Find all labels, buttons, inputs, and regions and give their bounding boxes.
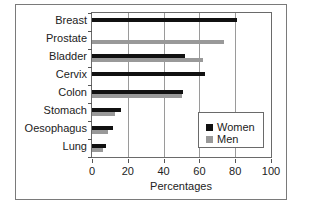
- x-tick-label: 80: [229, 165, 241, 177]
- y-tick: [88, 67, 92, 68]
- y-tick: [88, 13, 92, 14]
- category-label: Cervix: [56, 68, 87, 80]
- x-tick: [92, 159, 93, 163]
- category-label: Bladder: [49, 50, 87, 62]
- x-tick-label: 0: [89, 165, 95, 177]
- category-label: Colon: [58, 86, 87, 98]
- y-tick: [88, 49, 92, 50]
- bar-men-prostate: [92, 40, 224, 44]
- y-tick: [88, 31, 92, 32]
- category-label: Lung: [63, 140, 87, 152]
- bar-women-breast: [92, 18, 237, 22]
- category-label: Prostate: [46, 32, 87, 44]
- bar-men-bladder: [92, 58, 203, 62]
- legend-swatch-men: [206, 136, 213, 143]
- category-label: Stomach: [44, 104, 87, 116]
- x-tick-label: 40: [157, 165, 169, 177]
- x-tick: [235, 159, 236, 163]
- legend: Women Men: [198, 112, 264, 148]
- x-tick-label: 20: [122, 165, 134, 177]
- x-axis-title: Percentages: [150, 180, 212, 192]
- legend-item-women: Women: [206, 121, 255, 133]
- legend-swatch-women: [206, 124, 213, 131]
- y-tick: [88, 85, 92, 86]
- y-tick: [88, 139, 92, 140]
- y-tick: [88, 103, 92, 104]
- bar-men-stomach: [92, 112, 115, 116]
- bar-men-colon: [92, 94, 182, 98]
- legend-label-women: Women: [217, 121, 255, 133]
- legend-label-men: Men: [217, 133, 238, 145]
- x-tick-label: 100: [262, 165, 280, 177]
- category-label: Oesophagus: [25, 122, 87, 134]
- gridline: [164, 13, 165, 157]
- legend-item-men: Men: [206, 133, 238, 145]
- x-tick: [164, 159, 165, 163]
- x-tick-label: 60: [193, 165, 205, 177]
- bar-men-lung: [92, 148, 103, 152]
- x-tick: [128, 159, 129, 163]
- gridline: [128, 13, 129, 157]
- y-tick: [88, 121, 92, 122]
- bar-women-cervix: [92, 72, 205, 76]
- y-tick: [88, 157, 92, 158]
- bar-men-oesophagus: [92, 130, 108, 134]
- x-tick: [199, 159, 200, 163]
- x-tick: [271, 159, 272, 163]
- category-label: Breast: [55, 14, 87, 26]
